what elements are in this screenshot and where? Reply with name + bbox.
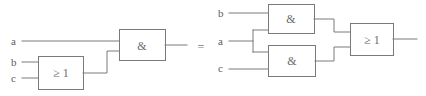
wire-or1-to-and1 <box>83 51 119 73</box>
left-input-label-a: a <box>11 35 16 47</box>
left-input-label-c: c <box>11 72 16 84</box>
circuit-diagram-canvas: a b c ≥ 1 & = b a c <box>0 0 426 96</box>
right-input-label-c: c <box>218 62 223 74</box>
and-gate-2-label: & <box>286 12 296 26</box>
logic-diagram: a b c ≥ 1 & = b a c <box>0 0 426 96</box>
left-circuit: a b c ≥ 1 & <box>11 30 187 90</box>
wire-and2-to-or2 <box>314 19 350 32</box>
wire-and3-to-or2 <box>315 47 350 61</box>
right-input-label-a: a <box>218 35 223 47</box>
and-gate-1-label: & <box>137 39 147 53</box>
right-input-label-b: b <box>218 7 224 19</box>
right-circuit: b a c & & ≥ 1 <box>218 5 417 77</box>
equality-sign: = <box>198 40 205 54</box>
left-input-label-b: b <box>11 56 17 68</box>
and-gate-3-label: & <box>287 54 297 68</box>
or-gate-2-label: ≥ 1 <box>364 33 380 47</box>
or-gate-1-label: ≥ 1 <box>53 66 69 80</box>
